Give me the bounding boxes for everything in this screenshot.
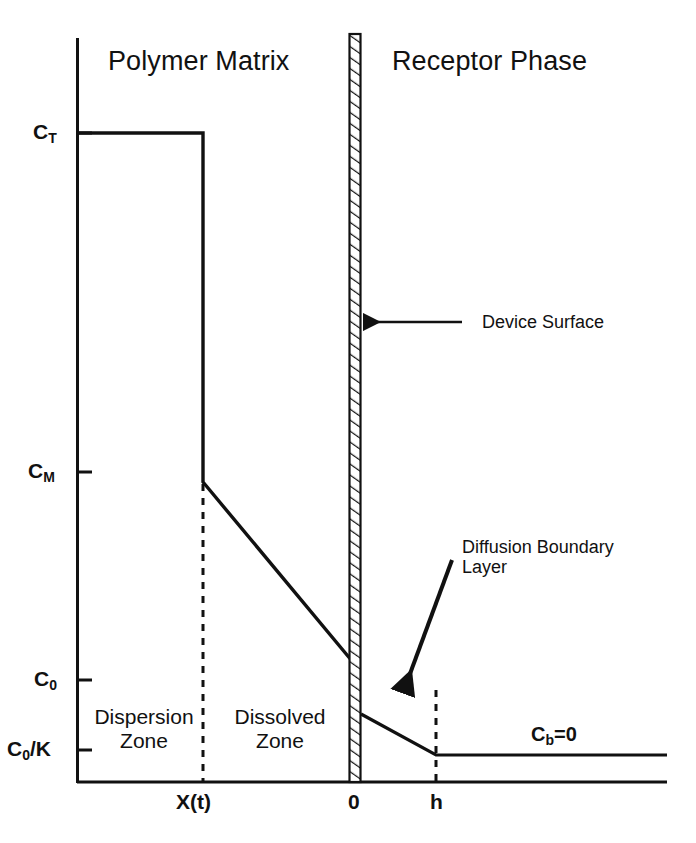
x-tick-label-h: h: [430, 790, 443, 814]
bulk-concentration-main: C: [531, 723, 545, 745]
dissolved-zone-line2: Zone: [222, 729, 338, 753]
dispersion-zone-line2: Zone: [88, 729, 200, 753]
y-tick-c0-sub: 0: [49, 677, 57, 693]
diffusion-boundary-line2: Layer: [462, 557, 614, 577]
dissolved-zone-line1: Dissolved: [222, 705, 338, 729]
x-tick-label-zero: 0: [348, 790, 360, 814]
polymer-matrix-title: Polymer Matrix: [108, 46, 289, 76]
y-tick-cm-main: C: [28, 459, 43, 482]
dissolved-zone-label: Dissolved Zone: [222, 705, 338, 752]
dispersion-zone-label: Dispersion Zone: [88, 705, 200, 752]
y-tick-ct-main: C: [33, 120, 48, 143]
x-tick-label-xt: X(t): [176, 790, 211, 814]
receptor-phase-title: Receptor Phase: [392, 46, 587, 76]
y-tick-c0k-main: C: [7, 737, 22, 760]
y-tick-label-cm: CM: [28, 459, 55, 483]
dispersion-zone-line1: Dispersion: [88, 705, 200, 729]
diffusion-boundary-layer-arrow: [404, 560, 452, 690]
diagram-canvas: Polymer Matrix Receptor Phase CT CM C0 C…: [0, 0, 696, 843]
y-tick-label-c0k: C0/K: [7, 737, 51, 761]
bulk-concentration-label: Cb=0: [531, 723, 577, 745]
y-tick-ct-sub: T: [48, 130, 57, 146]
y-tick-label-c0: C0: [34, 667, 57, 691]
y-tick-cm-sub: M: [43, 469, 55, 485]
device-surface-annotation: Device Surface: [482, 312, 604, 332]
y-tick-c0k-sub: 0: [22, 747, 30, 763]
y-tick-c0-main: C: [34, 667, 49, 690]
diffusion-boundary-layer-annotation: Diffusion Boundary Layer: [462, 537, 614, 577]
bulk-concentration-tail: =0: [554, 723, 577, 745]
device-surface-barrier: [350, 34, 361, 782]
diffusion-boundary-line1: Diffusion Boundary: [462, 537, 614, 557]
receptor-concentration-profile: [361, 714, 667, 755]
polymer-concentration-profile: [78, 133, 352, 661]
y-tick-c0k-tail: /K: [30, 737, 51, 760]
bulk-concentration-sub: b: [545, 732, 554, 748]
y-tick-label-ct: CT: [33, 120, 57, 144]
